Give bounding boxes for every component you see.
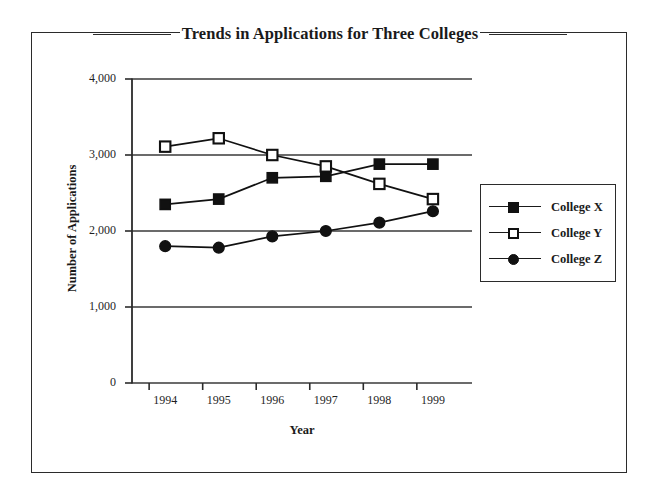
legend-label-college-z: College Z xyxy=(551,252,602,267)
x-tick-label: 1996 xyxy=(242,393,302,408)
filled-circle-icon xyxy=(508,254,519,265)
x-tick-label: 1994 xyxy=(135,393,195,408)
x-tick-label: 1995 xyxy=(189,393,249,408)
x-tick-label: 1999 xyxy=(403,393,463,408)
legend-label-college-x: College X xyxy=(551,200,603,215)
y-tick-label: 2,000 xyxy=(56,223,116,238)
y-tick-label: 4,000 xyxy=(56,71,116,86)
y-tick-label: 1,000 xyxy=(56,299,116,314)
legend-sample-college-z xyxy=(489,252,541,266)
legend-item-college-x: College X xyxy=(481,194,615,220)
x-tick-label: 1998 xyxy=(349,393,409,408)
x-axis-label: Year xyxy=(82,423,522,438)
chart-legend: College X College Y College Z xyxy=(480,184,616,282)
y-tick-label: 3,000 xyxy=(56,147,116,162)
legend-sample-college-y xyxy=(489,226,541,240)
legend-item-college-z: College Z xyxy=(481,246,615,272)
figure-frame: Trends in Applications for Three College… xyxy=(31,32,627,473)
legend-label-college-y: College Y xyxy=(551,226,602,241)
legend-item-college-y: College Y xyxy=(481,220,615,246)
legend-sample-college-x xyxy=(489,200,541,214)
y-tick-label: 0 xyxy=(56,375,116,390)
x-tick-label: 1997 xyxy=(296,393,356,408)
filled-square-icon xyxy=(508,202,519,213)
open-square-icon xyxy=(508,228,519,239)
